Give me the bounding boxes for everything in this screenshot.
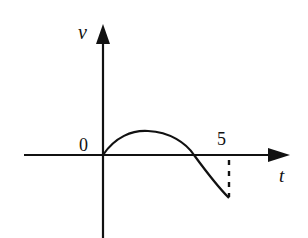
t-axis-arrow-icon [268,148,290,162]
t-tick-label-5: 5 [217,130,226,148]
v-axis-label: v [78,22,87,42]
t-axis-label: t [279,166,284,185]
v-axis-arrow-icon [96,24,110,44]
velocity-time-diagram: v 0 5 t [0,0,308,238]
velocity-curve [103,131,229,198]
diagram-canvas [0,0,308,238]
origin-label: 0 [79,136,88,154]
